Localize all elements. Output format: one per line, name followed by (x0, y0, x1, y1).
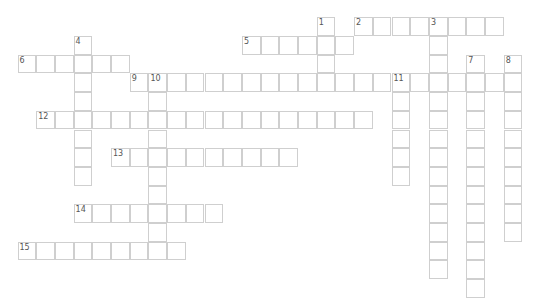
crossword-cell[interactable] (485, 73, 504, 92)
crossword-cell[interactable] (74, 148, 93, 167)
crossword-cell[interactable] (429, 55, 448, 74)
crossword-cell[interactable] (392, 130, 411, 149)
crossword-cell[interactable] (92, 55, 111, 74)
crossword-cell[interactable] (148, 186, 167, 205)
crossword-cell[interactable] (36, 55, 55, 74)
crossword-cell[interactable] (205, 204, 224, 223)
crossword-cell[interactable] (111, 242, 130, 261)
crossword-cell[interactable] (429, 73, 448, 92)
crossword-cell[interactable]: 12 (36, 111, 55, 130)
crossword-cell[interactable] (466, 130, 485, 149)
crossword-cell[interactable] (466, 186, 485, 205)
crossword-cell[interactable] (186, 111, 205, 130)
crossword-cell[interactable] (242, 148, 261, 167)
crossword-cell[interactable] (373, 17, 392, 36)
crossword-cell[interactable] (148, 111, 167, 130)
crossword-cell[interactable] (448, 17, 467, 36)
crossword-cell[interactable]: 11 (392, 73, 411, 92)
crossword-cell[interactable] (223, 73, 242, 92)
crossword-cell[interactable] (148, 223, 167, 242)
crossword-cell[interactable] (466, 279, 485, 298)
crossword-cell[interactable] (429, 242, 448, 261)
crossword-cell[interactable] (429, 148, 448, 167)
crossword-cell[interactable] (74, 130, 93, 149)
crossword-cell[interactable] (429, 204, 448, 223)
crossword-cell[interactable] (298, 73, 317, 92)
crossword-cell[interactable] (317, 55, 336, 74)
crossword-cell[interactable] (317, 111, 336, 130)
crossword-cell[interactable] (429, 36, 448, 55)
crossword-cell[interactable] (74, 167, 93, 186)
crossword-cell[interactable] (167, 111, 186, 130)
crossword-cell[interactable]: 7 (466, 55, 485, 74)
crossword-cell[interactable] (167, 73, 186, 92)
crossword-cell[interactable] (354, 73, 373, 92)
crossword-cell[interactable] (130, 148, 149, 167)
crossword-cell[interactable] (317, 36, 336, 55)
crossword-cell[interactable] (504, 111, 523, 130)
crossword-cell[interactable] (373, 73, 392, 92)
crossword-cell[interactable] (111, 204, 130, 223)
crossword-cell[interactable] (429, 260, 448, 279)
crossword-cell[interactable] (130, 111, 149, 130)
crossword-cell[interactable] (74, 55, 93, 74)
crossword-cell[interactable] (392, 92, 411, 111)
crossword-cell[interactable]: 15 (18, 242, 37, 261)
crossword-cell[interactable] (466, 242, 485, 261)
crossword-cell[interactable] (130, 204, 149, 223)
crossword-cell[interactable] (36, 242, 55, 261)
crossword-cell[interactable] (148, 130, 167, 149)
crossword-cell[interactable] (55, 242, 74, 261)
crossword-cell[interactable]: 5 (242, 36, 261, 55)
crossword-cell[interactable] (148, 148, 167, 167)
crossword-cell[interactable] (167, 204, 186, 223)
crossword-cell[interactable] (429, 167, 448, 186)
crossword-cell[interactable] (186, 148, 205, 167)
crossword-cell[interactable] (392, 167, 411, 186)
crossword-cell[interactable] (466, 167, 485, 186)
crossword-cell[interactable] (504, 223, 523, 242)
crossword-cell[interactable] (410, 17, 429, 36)
crossword-cell[interactable] (466, 17, 485, 36)
crossword-cell[interactable] (429, 92, 448, 111)
crossword-cell[interactable] (466, 92, 485, 111)
crossword-cell[interactable] (167, 242, 186, 261)
crossword-cell[interactable] (148, 92, 167, 111)
crossword-cell[interactable] (148, 167, 167, 186)
crossword-cell[interactable]: 4 (74, 36, 93, 55)
crossword-cell[interactable] (92, 111, 111, 130)
crossword-cell[interactable]: 8 (504, 55, 523, 74)
crossword-cell[interactable] (466, 73, 485, 92)
crossword-cell[interactable] (466, 111, 485, 130)
crossword-cell[interactable]: 10 (148, 73, 167, 92)
crossword-cell[interactable] (279, 111, 298, 130)
crossword-cell[interactable] (335, 111, 354, 130)
crossword-cell[interactable] (466, 204, 485, 223)
crossword-cell[interactable] (354, 111, 373, 130)
crossword-cell[interactable] (279, 36, 298, 55)
crossword-cell[interactable] (504, 204, 523, 223)
crossword-cell[interactable] (55, 55, 74, 74)
crossword-cell[interactable] (504, 148, 523, 167)
crossword-cell[interactable] (504, 130, 523, 149)
crossword-cell[interactable] (279, 73, 298, 92)
crossword-cell[interactable] (74, 242, 93, 261)
crossword-cell[interactable]: 13 (111, 148, 130, 167)
crossword-cell[interactable] (504, 92, 523, 111)
crossword-cell[interactable] (261, 111, 280, 130)
crossword-cell[interactable] (242, 73, 261, 92)
crossword-cell[interactable]: 3 (429, 17, 448, 36)
crossword-cell[interactable] (261, 148, 280, 167)
crossword-cell[interactable] (205, 111, 224, 130)
crossword-cell[interactable] (223, 111, 242, 130)
crossword-cell[interactable] (429, 130, 448, 149)
crossword-cell[interactable] (242, 111, 261, 130)
crossword-cell[interactable] (335, 36, 354, 55)
crossword-cell[interactable] (261, 73, 280, 92)
crossword-cell[interactable] (504, 167, 523, 186)
crossword-cell[interactable] (429, 223, 448, 242)
crossword-cell[interactable] (485, 17, 504, 36)
crossword-cell[interactable] (55, 111, 74, 130)
crossword-cell[interactable] (148, 242, 167, 261)
crossword-cell[interactable] (298, 36, 317, 55)
